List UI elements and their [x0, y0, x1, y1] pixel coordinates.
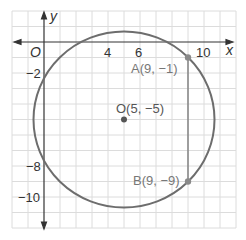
- y-tick-neg10: −10: [18, 190, 40, 205]
- x-axis-left-arrow-icon: [14, 40, 21, 45]
- x-tick-6: 6: [135, 45, 142, 60]
- point-a: [185, 54, 191, 60]
- point-a-label: A(9, −1): [131, 61, 178, 76]
- point-b-label: B(9, −9): [133, 173, 180, 188]
- x-tick-4: 4: [104, 45, 111, 60]
- y-axis-label: y: [49, 8, 58, 24]
- y-tick-neg8: −8: [26, 159, 41, 174]
- origin-label: O: [30, 44, 41, 60]
- center-label: O(5, −5): [116, 101, 164, 116]
- center-point: [121, 117, 127, 123]
- x-tick-10: 10: [196, 45, 210, 60]
- point-b: [185, 178, 191, 184]
- x-axis-label: x: [225, 42, 234, 58]
- y-tick-neg2: −2: [26, 66, 41, 81]
- y-axis-up-arrow-icon: [42, 12, 47, 19]
- coordinate-plane: y x O 4 6 10 −2 −8 −10 A(9, −1) B(9, −9)…: [0, 0, 246, 240]
